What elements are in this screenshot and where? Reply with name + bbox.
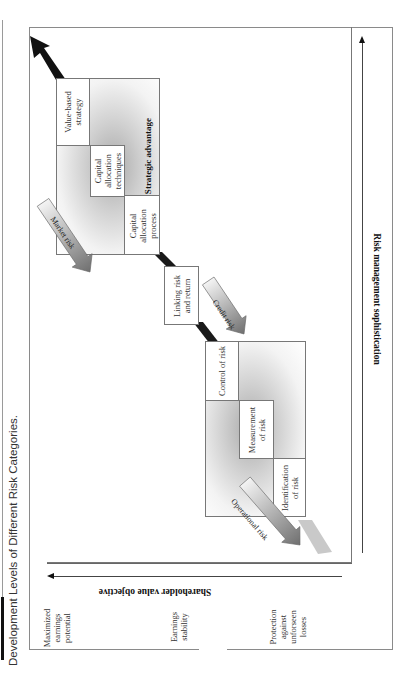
risk-arrows bbox=[0, 0, 412, 688]
credit-risk-arrow-icon bbox=[198, 274, 254, 340]
